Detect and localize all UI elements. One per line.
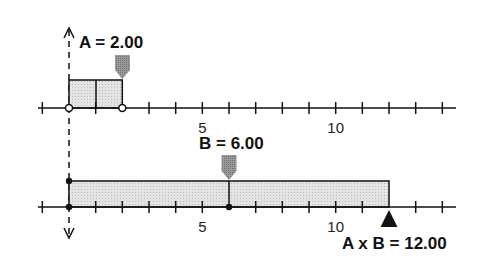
multiplication-diagram: A = 2.00 5 10 B = 6.00 5 10: [0, 0, 492, 268]
label-b: B = 6.00: [199, 134, 264, 153]
tick-label-5-bottom: 5: [198, 218, 206, 235]
label-result: A x B = 12.00: [342, 234, 447, 253]
result-triangle-icon: [381, 210, 398, 227]
point-zero: [66, 204, 72, 210]
marker-b-icon: [222, 155, 237, 180]
point-b: [226, 204, 232, 210]
tick-label-10-top: 10: [327, 119, 344, 136]
top-number-line: A = 2.00 5 10: [38, 33, 456, 136]
label-a: A = 2.00: [79, 33, 143, 52]
marker-a-icon: [115, 55, 130, 79]
point-corner: [66, 178, 72, 184]
open-point-a: [119, 105, 126, 112]
open-point-zero: [66, 105, 73, 112]
tick-label-10-bottom: 10: [327, 218, 344, 235]
bottom-number-line: B = 6.00 5 10 A x B = 12.00: [38, 134, 456, 253]
